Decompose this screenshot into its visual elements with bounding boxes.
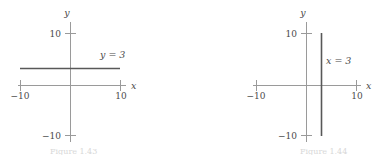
right-equation-label: x = 3 (326, 55, 351, 66)
left-xtick-label-right: 10 (115, 91, 127, 101)
left-plot-svg: y x 10 −10 −10 10 y = 3 (0, 0, 193, 155)
right-ytick-label-top: 10 (286, 29, 298, 39)
right-ytick-label-bottom: −10 (278, 131, 297, 141)
caption-left: Figure 1.43 (50, 147, 97, 155)
left-ytick-label-bottom: −10 (42, 131, 61, 141)
right-plot-svg: y x 10 −10 −10 10 x = 3 (193, 0, 385, 155)
left-x-axis-label: x (131, 80, 137, 91)
figure-pair-container: y x 10 −10 −10 10 y = 3 y x (0, 0, 385, 155)
left-y-axis-label: y (63, 7, 70, 18)
left-xtick-label-left: −10 (11, 91, 30, 101)
right-x-axis-label: x (366, 80, 372, 91)
plot-right-x-equals-3: y x 10 −10 −10 10 x = 3 (193, 0, 385, 155)
left-equation-label: y = 3 (99, 49, 125, 60)
left-ytick-label-top: 10 (50, 29, 62, 39)
caption-right: Figure 1.44 (300, 147, 347, 155)
right-xtick-label-left: −10 (247, 91, 266, 101)
right-y-axis-label: y (299, 7, 306, 18)
plot-left-y-equals-3: y x 10 −10 −10 10 y = 3 (0, 0, 193, 155)
right-xtick-label-right: 10 (351, 91, 363, 101)
